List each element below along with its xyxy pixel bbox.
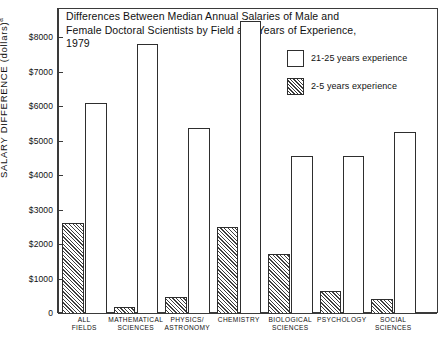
bar-2-5-years bbox=[371, 299, 393, 313]
x-axis-category-label-line: FIELDS bbox=[72, 324, 97, 332]
x-axis-category-label: ALLFIELDS bbox=[72, 316, 97, 332]
bar-2-5-years bbox=[320, 291, 342, 313]
x-axis-category-label: PSYCHOLOGY bbox=[317, 316, 367, 324]
x-axis-category-label-line: PSYCHOLOGY bbox=[317, 316, 367, 324]
y-axis-line bbox=[58, 9, 59, 314]
x-axis-category-label-line: SOCIAL bbox=[375, 316, 412, 324]
bar-2-5-years bbox=[268, 254, 290, 313]
x-axis-category-label-line: SCIENCES bbox=[375, 324, 412, 332]
x-axis-category-label-line: MATHEMATICAL bbox=[108, 316, 163, 324]
y-axis-tick bbox=[58, 37, 63, 38]
y-axis-tick-label: $5000 bbox=[29, 136, 53, 146]
x-axis-category-label-line: PHYSICS/ bbox=[164, 316, 210, 324]
y-axis-tick bbox=[58, 72, 63, 73]
bar-21-25-years bbox=[137, 44, 159, 313]
bar-21-25-years bbox=[240, 21, 262, 313]
x-axis-category-label-line: SCIENCES bbox=[108, 324, 163, 332]
y-axis-tick bbox=[58, 175, 63, 176]
y-axis-tick-label: $1000 bbox=[29, 274, 53, 284]
bar-2-5-years bbox=[114, 307, 136, 313]
x-axis-line bbox=[58, 313, 437, 314]
chart-root: Differences Between Median Annual Salari… bbox=[0, 0, 443, 355]
x-axis-category-label-line: BIOLOGICAL bbox=[269, 316, 312, 324]
bar-2-5-years bbox=[165, 297, 187, 313]
bar-2-5-years bbox=[217, 227, 239, 313]
bar-21-25-years bbox=[343, 156, 365, 313]
y-axis-tick-label: $8000 bbox=[29, 32, 53, 42]
bar-21-25-years bbox=[188, 128, 210, 313]
plot-area bbox=[58, 9, 437, 313]
x-axis-category-label: CHEMISTRY bbox=[218, 316, 260, 324]
bar-21-25-years bbox=[394, 132, 416, 313]
x-axis-category-label: PHYSICS/ASTRONOMY bbox=[164, 316, 210, 332]
y-axis-tick-label: $6000 bbox=[29, 101, 53, 111]
x-axis-category-label: BIOLOGICALSCIENCES bbox=[269, 316, 312, 332]
y-axis-tick bbox=[58, 141, 63, 142]
y-axis-tick-label: $4000 bbox=[29, 170, 53, 180]
x-axis-category-label-line: CHEMISTRY bbox=[218, 316, 260, 324]
y-axis-tick-label: $7000 bbox=[29, 67, 53, 77]
x-axis-category-label: MATHEMATICALSCIENCES bbox=[108, 316, 163, 332]
x-axis-category-label-line: ASTRONOMY bbox=[164, 324, 210, 332]
bar-2-5-years bbox=[62, 223, 84, 313]
x-axis-category-labels: ALLFIELDSMATHEMATICALSCIENCESPHYSICS/AST… bbox=[0, 316, 443, 346]
x-axis-category-label-line: SCIENCES bbox=[269, 324, 312, 332]
y-axis-tick-label: $3000 bbox=[29, 205, 53, 215]
x-axis-category-label-line: ALL bbox=[72, 316, 97, 324]
bar-21-25-years bbox=[85, 103, 107, 313]
x-axis-category-label: SOCIALSCIENCES bbox=[375, 316, 412, 332]
bar-21-25-years bbox=[291, 156, 313, 313]
y-axis-tick bbox=[58, 210, 63, 211]
y-axis-tick-labels: 0$1000$2000$3000$4000$5000$6000$7000$800… bbox=[0, 0, 57, 355]
y-axis-tick-label: $2000 bbox=[29, 239, 53, 249]
y-axis-tick bbox=[58, 106, 63, 107]
